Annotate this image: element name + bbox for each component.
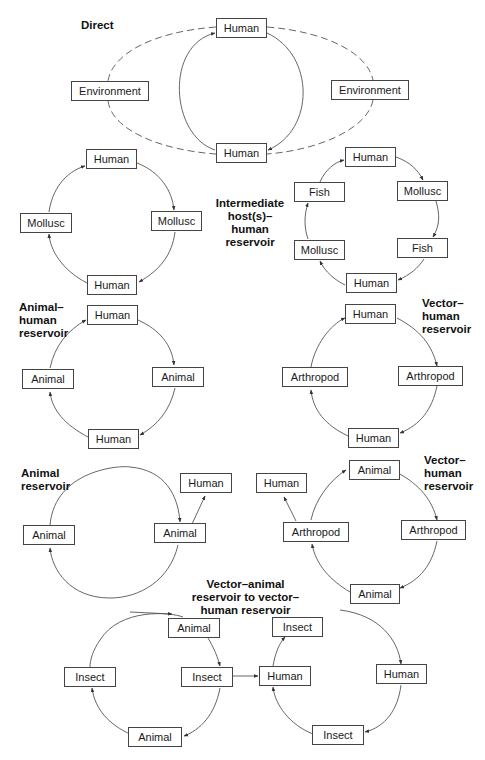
node-mollusc: Mollusc [397, 181, 448, 201]
node-animal: Animal [154, 523, 206, 543]
node-human: Human [180, 473, 232, 493]
node-human: Human [259, 666, 311, 686]
node-animal: Animal [350, 584, 400, 604]
node-human: Human [87, 275, 137, 295]
node-arthropod: Arthropod [282, 367, 348, 387]
label-line: human [422, 310, 471, 323]
label-vector-animal: Vector–animal reservoir to vector– human… [183, 578, 308, 617]
label-line: human [19, 314, 68, 327]
node-environment: Environment [71, 81, 149, 101]
label-line: reservoir [19, 327, 68, 340]
label-line: reservoir [21, 480, 70, 493]
node-human: Human [256, 473, 307, 493]
label-line: reservoir [422, 323, 471, 336]
node-insect: Insect [64, 667, 116, 687]
node-mollusc: Mollusc [294, 240, 345, 260]
node-insect: Insect [312, 725, 364, 745]
node-animal: Animal [22, 369, 74, 389]
node-fish: Fish [397, 238, 448, 258]
node-arthropod: Arthropod [401, 520, 466, 540]
node-environment: Environment [331, 80, 409, 100]
node-arthropod: Arthropod [283, 522, 349, 542]
label-line: reservoir [205, 236, 295, 249]
label-line: human reservoir [183, 604, 308, 617]
node-human: Human [345, 147, 396, 167]
label-animal-human: Animal– human reservoir [19, 301, 68, 340]
node-human: Human [87, 305, 138, 325]
label-direct: Direct [81, 19, 114, 32]
label-vector-human-1: Vector– human reservoir [422, 297, 471, 336]
label-line: Vector–animal [183, 578, 308, 591]
label-line: Animal [21, 467, 70, 480]
node-human: Human [376, 664, 427, 684]
label-line: host(s)– [205, 210, 295, 223]
node-human: Human [346, 273, 397, 293]
node-mollusc: Mollusc [151, 211, 202, 231]
node-mollusc: Mollusc [20, 213, 72, 233]
node-human: Human [345, 304, 396, 324]
label-line: Intermediate [205, 197, 295, 210]
node-human: Human [86, 149, 137, 169]
label-line: Vector– [422, 297, 471, 310]
label-intermediate: Intermediate host(s)– human reservoir [205, 197, 295, 249]
node-animal: Animal [349, 460, 400, 480]
node-insect: Insect [181, 667, 233, 687]
label-line: Animal– [19, 301, 68, 314]
node-animal: Animal [128, 727, 182, 747]
label-line: human [424, 467, 473, 480]
node-animal: Animal [23, 525, 75, 545]
node-human: Human [348, 428, 399, 448]
label-line: Vector– [424, 454, 473, 467]
node-human: Human [216, 143, 267, 163]
node-human: Human [88, 429, 139, 449]
node-fish: Fish [294, 182, 345, 202]
label-line: reservoir to vector– [183, 591, 308, 604]
label-line: reservoir [424, 480, 473, 493]
node-arthropod: Arthropod [398, 366, 463, 386]
label-animal-reservoir: Animal reservoir [21, 467, 70, 493]
node-animal: Animal [168, 618, 220, 638]
node-human: Human [216, 18, 267, 38]
node-insect: Insect [272, 617, 323, 637]
label-vector-human-2: Vector– human reservoir [424, 454, 473, 493]
node-animal: Animal [152, 367, 204, 387]
label-line: human [205, 223, 295, 236]
